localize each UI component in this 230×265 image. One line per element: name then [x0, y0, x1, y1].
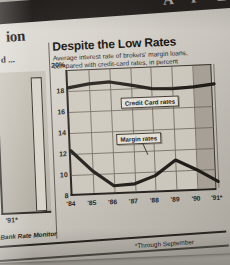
- y-axis-tick-label: 18: [38, 87, 64, 95]
- section-heading: ion: [5, 28, 25, 46]
- y-axis-top-label: 20%: [51, 61, 65, 69]
- left-panel-xlabel: '91*: [5, 216, 17, 224]
- x-axis-tick-label: '84: [66, 200, 75, 207]
- y-axis-tick-label: 12: [41, 150, 67, 158]
- series-lines: [67, 64, 218, 196]
- newspaper-clipping: A P E R ion d ... '91* Despite the Low R…: [0, 1, 230, 264]
- plot-area: Credit Card rates Margin rates: [65, 64, 216, 196]
- y-axis-tick-label: 16: [39, 108, 65, 116]
- scanned-page: A P E R ion d ... '91* Despite the Low R…: [0, 0, 230, 265]
- credit-card-line: [68, 78, 214, 94]
- x-axis-tick-label: '88: [150, 196, 159, 203]
- y-axis-tick-label: 14: [40, 129, 66, 137]
- x-axis-tick-label: '91*: [211, 194, 223, 201]
- masthead-band: A P E R: [0, 0, 230, 26]
- bottom-rule: [0, 244, 229, 262]
- x-axis-tick-label: '85: [87, 199, 96, 206]
- x-axis-tick-label: '87: [129, 197, 138, 204]
- plot-wrapper: 20% Credit Card rates Margin rates 81012…: [65, 64, 216, 196]
- margin-rates-callout: Margin rates: [116, 132, 161, 145]
- x-axis-tick-label: '89: [171, 195, 180, 202]
- y-axis-tick-label: 10: [42, 171, 68, 179]
- x-axis-labels: '84'85'86'87'88'89'90'91*: [71, 194, 217, 212]
- masthead-letters: A P E R: [162, 0, 230, 9]
- x-axis-tick-label: '90: [191, 195, 200, 202]
- margin-rates-line: [71, 145, 218, 188]
- chart-figure: Despite the Low Rates Average interest r…: [52, 34, 220, 241]
- left-panel-title: d ...: [1, 54, 15, 65]
- x-axis-tick-label: '86: [108, 198, 117, 205]
- y-axis-tick-label: 8: [43, 192, 69, 200]
- left-bar: [31, 77, 48, 211]
- left-partial-chart: d ... '91*: [0, 49, 54, 237]
